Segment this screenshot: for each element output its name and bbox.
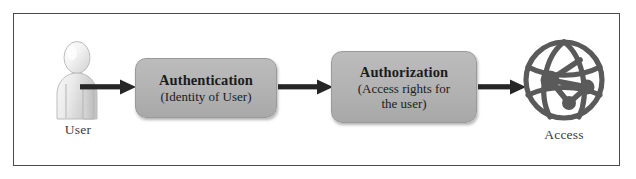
diagram-root: User Authentication (Identity of User) A… xyxy=(0,0,636,179)
node-access: Access xyxy=(517,35,611,150)
globe-network-icon xyxy=(517,35,611,127)
diagram-frame: User Authentication (Identity of User) A… xyxy=(13,13,620,166)
authorization-subtitle-line2: the user) xyxy=(375,96,432,111)
authorization-title: Authorization xyxy=(360,64,448,81)
authorization-box: Authorization (Access rights for the use… xyxy=(331,51,477,123)
authorization-subtitle-line1: (Access rights for xyxy=(352,81,456,96)
authentication-title: Authentication xyxy=(159,72,253,89)
access-label: Access xyxy=(517,127,611,143)
arrow-authentication-to-authorization-icon xyxy=(278,78,333,96)
authentication-subtitle: (Identity of User) xyxy=(155,89,258,104)
authentication-box: Authentication (Identity of User) xyxy=(135,58,277,118)
arrow-user-to-authentication-icon xyxy=(80,78,136,96)
user-label: User xyxy=(45,122,111,138)
